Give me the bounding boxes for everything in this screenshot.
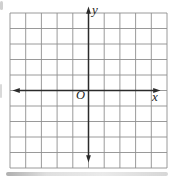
y-axis-bottom-arrowhead <box>86 155 91 162</box>
x-axis <box>13 88 161 93</box>
y-axis-top-arrowhead <box>86 7 91 14</box>
coordinate-plane-figure: y x O <box>0 0 179 178</box>
origin-label: O <box>76 89 85 102</box>
x-axis-left-arrowhead <box>13 88 20 93</box>
y-axis <box>86 7 91 163</box>
y-axis-label: y <box>92 3 98 16</box>
x-axis-label: x <box>152 90 158 103</box>
